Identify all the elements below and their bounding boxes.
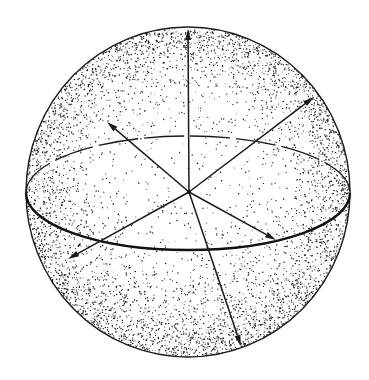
arrow-up-shaft (188, 40, 189, 192)
sphere-diagram (0, 0, 369, 380)
center-point (187, 190, 191, 194)
arrow-lower-left-shaft (78, 192, 189, 254)
arrow-upper-left-shaft (115, 129, 189, 192)
equator-front-arc (26, 193, 350, 250)
arrow-lower-left-head-icon (68, 251, 79, 259)
arrow-right-equator-head-icon (265, 232, 276, 240)
radial-arrows (68, 29, 314, 346)
arrow-down-head-icon (235, 335, 241, 346)
